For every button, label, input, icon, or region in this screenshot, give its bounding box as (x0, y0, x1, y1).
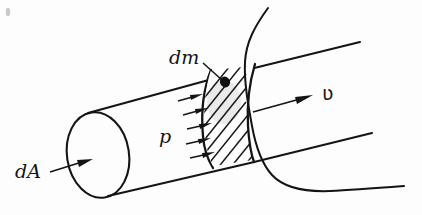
scan-speck (6, 8, 10, 16)
area-label: dA (15, 160, 41, 182)
fluid-tube-diagram: p dA dm ʋ (0, 0, 422, 215)
left-end-cap (61, 108, 136, 203)
velocity-arrow-line (253, 99, 300, 112)
hatched-slab (180, 46, 282, 215)
mass-element-label: dm (169, 46, 199, 68)
velocity-label: ʋ (322, 82, 333, 104)
area-arrow-line (50, 162, 82, 172)
diagram-canvas: p dA dm ʋ (0, 0, 422, 215)
velocity-arrowhead (295, 95, 313, 104)
area-arrowhead (77, 159, 93, 167)
pressure-label: p (159, 125, 171, 147)
